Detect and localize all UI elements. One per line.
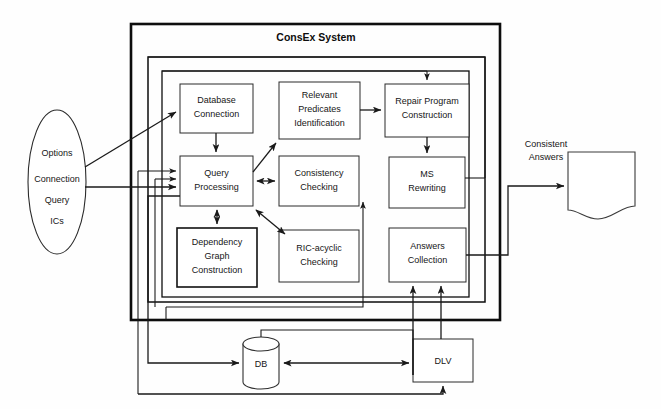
edge-db-feedback-bus <box>261 330 413 375</box>
node-query-processing-line2: Processing <box>194 182 239 192</box>
input-line-query: Query <box>45 195 70 205</box>
node-database-connection: Database Connection <box>180 84 253 133</box>
node-answers-collection-line1: Answers <box>410 241 445 251</box>
edge-query-processing-ric-acyclic <box>256 210 285 234</box>
input-line-ics: ICs <box>50 216 64 226</box>
consistent-answers-label-line1: Consistent <box>525 139 568 149</box>
node-answers-collection-line2: Collection <box>408 255 448 265</box>
node-dependency-graph-line3: Construction <box>192 265 243 275</box>
edge-query-processing-to-relevant-predicates <box>253 143 276 172</box>
edge-answers-collection-to-consistent-answers <box>466 186 564 255</box>
edge-system-bus-to-dlv <box>138 386 443 394</box>
node-repair-program-line2: Construction <box>402 110 453 120</box>
input-parameters-ellipse: Options Connection Query ICs <box>28 110 86 254</box>
node-ric-acyclic-line2: Checking <box>300 257 338 267</box>
node-query-processing: Query Processing <box>180 156 253 206</box>
node-consistency-checking-line2: Checking <box>300 182 338 192</box>
node-ric-acyclic-checking: RIC-acyclic Checking <box>279 230 359 282</box>
node-db-store: DB <box>243 337 279 389</box>
input-line-connection: Connection <box>34 174 80 184</box>
node-dlv-label: DLV <box>435 356 452 366</box>
node-relevant-predicates-line2: Predicates <box>298 104 341 114</box>
node-repair-program-line1: Repair Program <box>395 96 459 106</box>
consistent-answers-document: Consistent Answers <box>525 139 635 219</box>
node-dependency-graph-line2: Graph <box>204 251 229 261</box>
node-answers-collection: Answers Collection <box>389 228 466 282</box>
node-db-label: DB <box>255 359 268 369</box>
node-ms-rewriting-line1: MS <box>420 169 434 179</box>
node-database-connection-line1: Database <box>197 95 236 105</box>
node-repair-program-construction: Repair Program Construction <box>385 84 469 137</box>
consex-system-diagram: ConsEx System Options Connection Query I… <box>0 0 661 409</box>
node-ric-acyclic-line1: RIC-acyclic <box>296 243 342 253</box>
node-relevant-predicates-line1: Relevant <box>302 90 338 100</box>
node-ms-rewriting-line2: Rewriting <box>408 183 446 193</box>
node-ms-rewriting: MS Rewriting <box>389 157 465 208</box>
consistent-answers-label-line2: Answers <box>529 152 564 162</box>
node-dependency-graph-line1: Dependency <box>192 237 243 247</box>
node-relevant-predicates-identification: Relevant Predicates Identification <box>279 82 360 139</box>
node-database-connection-line2: Connection <box>194 109 240 119</box>
node-relevant-predicates-line3: Identification <box>294 118 345 128</box>
page-title: ConsEx System <box>276 31 355 43</box>
node-query-processing-line1: Query <box>204 168 229 178</box>
node-dependency-graph-construction: Dependency Graph Construction <box>177 228 257 287</box>
node-dlv-solver: DLV <box>413 339 473 382</box>
node-consistency-checking-line1: Consistency <box>294 168 344 178</box>
node-consistency-checking: Consistency Checking <box>279 156 359 206</box>
input-line-options: Options <box>41 148 73 158</box>
